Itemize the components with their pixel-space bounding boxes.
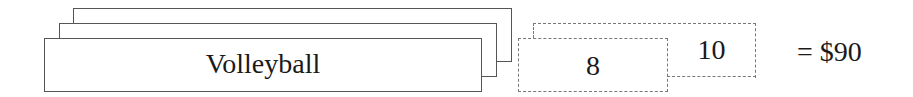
dashed-box-front-value: 8 [518,52,668,80]
dashed-box-back-left [533,23,534,38]
result-text: = $90 [797,38,862,66]
card-label: Volleyball [44,50,482,78]
dashed-box-back-bottom [667,76,756,77]
dashed-box-back-value: 10 [667,36,756,64]
